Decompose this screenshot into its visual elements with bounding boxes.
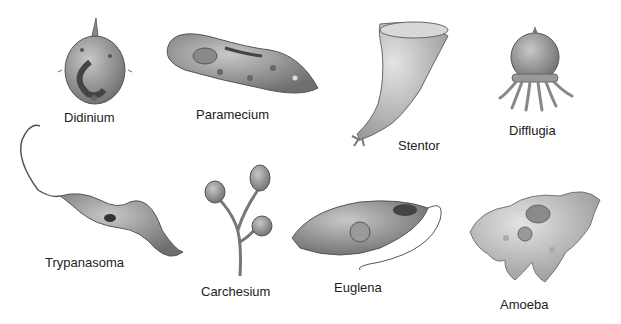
euglena-illustration <box>292 201 441 270</box>
label-trypanasoma: Trypanasoma <box>45 255 124 270</box>
label-carchesium: Carchesium <box>201 284 270 299</box>
difflugia-illustration <box>500 26 572 110</box>
label-paramecium: Paramecium <box>196 107 269 122</box>
label-didinium: Didinium <box>64 110 115 125</box>
label-difflugia: Difflugia <box>509 123 556 138</box>
carchesium-illustration <box>205 165 272 276</box>
label-stentor: Stentor <box>398 138 440 153</box>
trypanasoma-illustration <box>21 125 183 256</box>
didinium-illustration <box>58 18 132 104</box>
label-amoeba: Amoeba <box>500 297 548 312</box>
amoeba-illustration <box>470 192 600 282</box>
illustrations <box>0 0 621 324</box>
label-euglena: Euglena <box>334 280 382 295</box>
paramecium-illustration <box>167 34 318 93</box>
protist-diagram: Didinium Paramecium Stentor Difflugia Tr… <box>0 0 621 324</box>
stentor-illustration <box>352 22 448 146</box>
